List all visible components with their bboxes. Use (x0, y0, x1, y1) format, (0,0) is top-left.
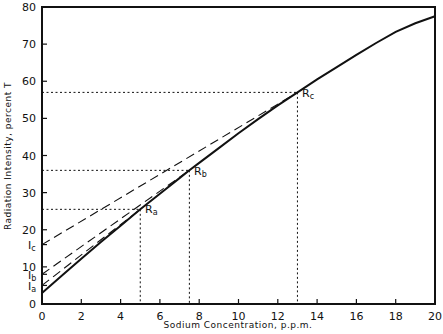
tangent-lines (42, 92, 298, 285)
x-tick-label: 20 (428, 310, 442, 323)
y-tick-label: 20 (22, 224, 36, 237)
y-tick-label: 60 (22, 75, 36, 88)
y-tick-label: 40 (22, 150, 36, 163)
y-axis-tick-labels: 01020304050607080 (22, 1, 36, 311)
y-tick-label: 50 (22, 112, 36, 125)
calibration-curve (42, 16, 435, 293)
y-label-ic: Ic (28, 239, 36, 253)
y-tick-label: 30 (22, 187, 36, 200)
point-label-rb: Rb (194, 165, 207, 179)
tangent-line (42, 170, 189, 274)
x-axis-title: Sodium Concentration, p.p.m. (164, 320, 313, 330)
y-tick-label: 80 (22, 1, 36, 14)
x-tick-label: 2 (78, 310, 85, 323)
reference-lines (42, 92, 297, 304)
y-tick-label: 70 (22, 38, 36, 51)
chart: 02468101214161820 01020304050607080 Ia I… (0, 0, 443, 334)
plot-frame (42, 7, 435, 304)
x-tick-label: 6 (156, 310, 163, 323)
x-tick-label: 16 (349, 310, 363, 323)
x-tick-label: 0 (39, 310, 46, 323)
tangent-line (42, 92, 298, 244)
y-axis-title: Radiation Intensity, percent T (3, 82, 13, 230)
x-tick-label: 4 (117, 310, 124, 323)
point-label-rc: Rc (302, 87, 314, 101)
y-tick-label: 0 (29, 298, 36, 311)
point-label-ra: Ra (145, 203, 158, 217)
x-tick-label: 18 (389, 310, 403, 323)
